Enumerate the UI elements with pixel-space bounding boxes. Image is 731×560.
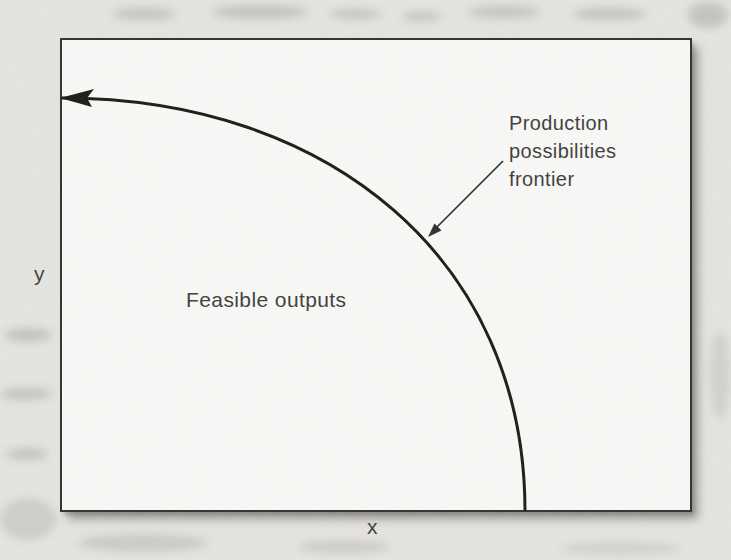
bleed-smudge (0, 388, 52, 400)
bleed-smudge (402, 12, 442, 21)
bleed-smudge (4, 328, 52, 342)
bleed-smudge (298, 540, 390, 554)
annotation-line-2: possibilities (509, 137, 616, 165)
bleed-smudge (78, 534, 208, 552)
bleed-smudge (688, 2, 728, 28)
ppf-annotation-label: Production possibilities frontier (509, 109, 616, 193)
feasible-outputs-label: Feasible outputs (186, 288, 347, 312)
x-axis-label: x (367, 515, 378, 539)
bleed-smudge (572, 8, 646, 20)
annotation-line-1: Production (509, 109, 616, 137)
bleed-smudge (560, 542, 680, 555)
bleed-smudge (0, 498, 56, 540)
bleed-smudge (112, 8, 176, 20)
y-axis-label: y (34, 262, 45, 286)
bleed-smudge (6, 448, 48, 460)
bleed-smudge (710, 330, 730, 420)
bleed-smudge (468, 6, 540, 18)
bleed-smudge (212, 5, 308, 19)
scanned-page: y x Feasible outputs Production possibil… (0, 0, 731, 560)
bleed-smudge (330, 9, 382, 19)
annotation-line-3: frontier (509, 165, 616, 193)
